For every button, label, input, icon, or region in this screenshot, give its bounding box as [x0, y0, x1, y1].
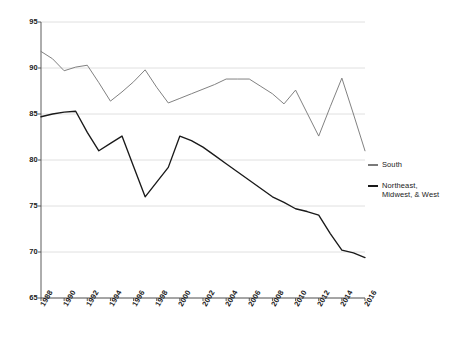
- x-tick-label: 2008: [270, 289, 285, 308]
- legend-label-northeast-midwest-west-line2: Midwest, & West: [382, 190, 468, 200]
- x-tick-label: 1992: [85, 289, 100, 308]
- x-tick-label: 2006: [247, 289, 262, 308]
- x-tick-label: 2014: [339, 289, 354, 308]
- legend-swatch-northeast-midwest-west: [368, 185, 378, 187]
- x-tick-label: 2002: [201, 289, 216, 308]
- legend-swatch-south: [368, 164, 378, 166]
- x-tick-label: 1994: [108, 289, 123, 308]
- legend-label-northeast-midwest-west-line1: Northeast,: [382, 181, 468, 191]
- legend-label-south: South: [382, 160, 468, 170]
- x-tick-label: 1990: [62, 289, 77, 308]
- x-tick-label: 1996: [131, 289, 146, 308]
- legend-item-south: South: [368, 160, 468, 170]
- x-tick-label: 2010: [293, 289, 308, 308]
- x-tick-label: 2000: [177, 289, 192, 308]
- x-tick-label: 1998: [154, 289, 169, 308]
- x-tick-label: 2012: [316, 289, 331, 308]
- x-tick-label: 1988: [39, 289, 54, 308]
- x-tick-label: 2004: [224, 289, 239, 308]
- x-tick-label: 2016: [363, 289, 378, 308]
- chart-legend: South Northeast, Midwest, & West: [368, 160, 468, 211]
- line-chart: 95908580757065 1988199019921994199619982…: [0, 0, 470, 338]
- legend-item-northeast-midwest-west: Northeast, Midwest, & West: [368, 181, 468, 200]
